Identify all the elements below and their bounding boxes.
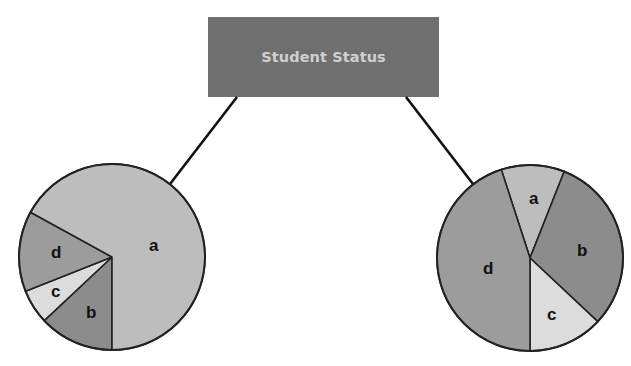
connector-left <box>170 97 237 184</box>
right-label-b: b <box>577 241 587 260</box>
diagram-canvas: a b c d a b c d <box>0 0 631 366</box>
right-label-c: c <box>547 305 556 324</box>
right-label-a: a <box>529 189 539 208</box>
connector-right <box>406 97 473 184</box>
left-label-b: b <box>86 303 96 322</box>
pie-chart-left <box>19 164 205 350</box>
left-label-c: c <box>51 282 60 301</box>
left-label-d: d <box>51 243 61 262</box>
student-status-diagram: Student Status a b c d a b c d <box>0 0 631 366</box>
right-label-d: d <box>483 259 493 278</box>
left-label-a: a <box>149 236 159 255</box>
